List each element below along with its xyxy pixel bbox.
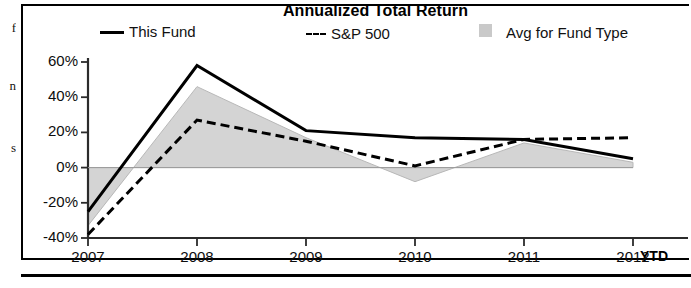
plot-area	[0, 0, 691, 288]
x-axis-tick-label: 2008	[157, 248, 237, 265]
x-axis-tick-label: 2007	[48, 248, 128, 265]
y-axis-tick-label: 60%	[24, 52, 78, 69]
y-axis-tick-label: 40%	[24, 87, 78, 104]
chart-figure: f n s Annualized Total Return This Fund …	[0, 0, 691, 288]
x-axis-tick-label: 2009	[266, 248, 346, 265]
y-axis-tick-label: -40%	[24, 228, 78, 245]
y-axis-tick-label: 20%	[24, 122, 78, 139]
x-axis-tick-label: 2011	[484, 248, 564, 265]
y-axis-tick-label: -20%	[24, 193, 78, 210]
x-axis-tick-label: 2010	[375, 248, 455, 265]
y-axis-tick-label: 0%	[24, 158, 78, 175]
x-axis-tick-label: 2012	[593, 248, 673, 265]
series-area-avg-fund-type	[88, 87, 633, 226]
